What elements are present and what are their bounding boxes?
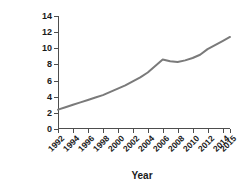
- y-tick-label: 2: [47, 108, 52, 117]
- series-line-bottled-water: [58, 16, 230, 129]
- plot-area: 02468101214 1992199419961998200020022004…: [58, 16, 230, 129]
- y-tick-label: 10: [42, 44, 52, 53]
- y-tick-label: 0: [47, 125, 52, 134]
- y-tick-label: 4: [47, 92, 52, 101]
- x-axis-title: Year: [0, 170, 250, 181]
- y-tick-label: 8: [47, 60, 52, 69]
- y-tick-label: 6: [47, 76, 52, 85]
- line-chart: Gallons of bottled water sold (billion) …: [0, 0, 250, 191]
- y-tick-label: 12: [42, 28, 52, 37]
- y-tick-label: 14: [42, 12, 52, 21]
